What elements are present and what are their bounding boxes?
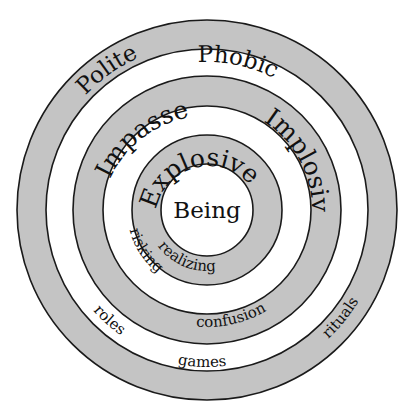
label-games: games xyxy=(177,350,227,371)
label-being: Being xyxy=(173,197,241,223)
concentric-diagram: Polite Phobic Impasse Implosive Explosiv… xyxy=(0,0,414,409)
